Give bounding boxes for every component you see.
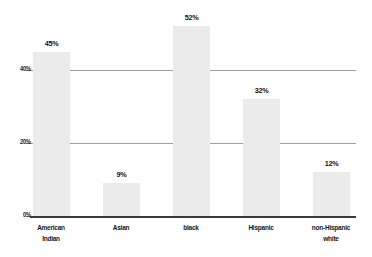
bar-value-hispanic: 32% xyxy=(245,87,278,95)
x-axis-line xyxy=(30,216,356,218)
category-label-black: black xyxy=(157,223,225,234)
category-label-line1: Hispanic xyxy=(248,223,273,232)
bar-value-black: 52% xyxy=(175,14,208,22)
bar-chart: 40% 20% 0% 45% 9% 52% 32% 12% American I… xyxy=(0,0,372,257)
bar-value-american-indian: 45% xyxy=(35,40,68,48)
category-label-line2: white xyxy=(297,234,365,245)
category-label-american-indian: American Indian xyxy=(17,223,85,244)
category-label-asian: Asian xyxy=(87,223,155,234)
category-label-line2: Indian xyxy=(17,234,85,245)
ytick-label-40: 40% xyxy=(8,66,31,73)
bar-asian[interactable] xyxy=(103,183,140,216)
bar-value-asian: 9% xyxy=(105,171,138,179)
bar-american-indian[interactable] xyxy=(33,52,70,216)
bar-value-non-hispanic-white: 12% xyxy=(315,160,348,168)
category-label-line1: black xyxy=(183,223,198,232)
category-label-line1: American xyxy=(37,223,65,232)
category-label-non-hispanic-white: non-Hispanic white xyxy=(297,223,365,244)
ytick-label-20: 20% xyxy=(8,139,31,146)
bar-hispanic[interactable] xyxy=(243,99,280,216)
bar-non-hispanic-white[interactable] xyxy=(313,172,350,216)
category-label-hispanic: Hispanic xyxy=(227,223,295,234)
category-label-line1: non-Hispanic xyxy=(312,223,350,232)
bar-black[interactable] xyxy=(173,26,210,216)
category-label-line1: Asian xyxy=(113,223,129,232)
ytick-label-0: 0% xyxy=(8,212,31,219)
